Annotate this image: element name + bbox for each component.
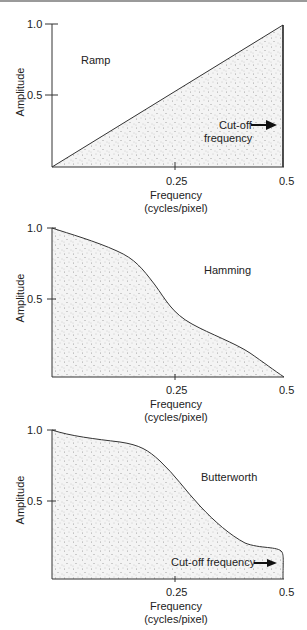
- x-axis-label: Frequency: [150, 398, 202, 410]
- x-tick-label: 0.5: [279, 175, 294, 187]
- chart-hamming: 1.0 0.5 0.25 0.5 Frequency (cycles/pixel…: [14, 222, 294, 423]
- x-tick-label: 0.5: [279, 384, 294, 396]
- y-tick-label: 1.0: [27, 424, 42, 436]
- x-axis-units: (cycles/pixel): [144, 202, 208, 214]
- x-tick-label: 0.25: [166, 175, 187, 187]
- y-axis-label: Amplitude: [14, 68, 26, 117]
- figure: 1.0 0.5 0.25 0.5 Frequency (cycles/pixel…: [0, 0, 307, 630]
- x-axis-units: (cycles/pixel): [144, 411, 208, 423]
- y-tick-label: 0.5: [27, 89, 42, 101]
- y-tick-label: 1.0: [27, 18, 42, 30]
- y-axis-label: Amplitude: [14, 476, 26, 525]
- x-axis-units: (cycles/pixel): [144, 613, 208, 625]
- x-axis-label: Frequency: [150, 600, 202, 612]
- chart-ramp: 1.0 0.5 0.25 0.5 Frequency (cycles/pixel…: [14, 18, 294, 214]
- y-axis-label: Amplitude: [14, 274, 26, 323]
- annotation: Cut-off frequency: [171, 556, 256, 568]
- annotation-line2: frequency: [204, 132, 253, 144]
- x-tick-label: 0.25: [166, 384, 187, 396]
- y-tick-label: 0.5: [27, 293, 42, 305]
- y-tick-label: 1.0: [27, 222, 42, 234]
- chart-title: Ramp: [81, 54, 110, 66]
- x-tick-label: 0.25: [166, 586, 187, 598]
- x-axis-label: Frequency: [150, 189, 202, 201]
- chart-butterworth: 1.0 0.5 0.25 0.5 Frequency (cycles/pixel…: [14, 424, 294, 625]
- annotation-line1: Cut-off: [219, 119, 253, 131]
- x-tick-label: 0.5: [279, 586, 294, 598]
- y-tick-label: 0.5: [27, 495, 42, 507]
- chart-title: Butterworth: [201, 471, 257, 483]
- chart-title: Hamming: [204, 264, 251, 276]
